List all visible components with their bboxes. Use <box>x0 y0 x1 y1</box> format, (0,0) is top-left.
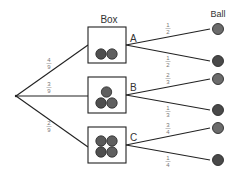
svg-text:2: 2 <box>166 62 170 68</box>
svg-text:9: 9 <box>47 88 51 94</box>
ball-icon <box>96 49 106 59</box>
box-c: C <box>88 127 137 163</box>
fraction-a-light: 1 2 <box>166 22 171 35</box>
ball-icon <box>96 98 106 108</box>
svg-text:4: 4 <box>47 57 51 63</box>
svg-text:1: 1 <box>166 105 170 111</box>
fraction-a-dark: 1 2 <box>166 55 171 68</box>
ball-branches <box>126 29 210 160</box>
box-c-label: C <box>130 132 137 143</box>
ball-light-icon <box>213 74 224 85</box>
box-column-title: Box <box>100 14 117 25</box>
ball-light-icon <box>213 123 224 134</box>
ball-icon <box>107 147 117 157</box>
svg-text:1: 1 <box>166 22 170 28</box>
branch-root-to-a <box>16 45 88 96</box>
fraction-c-dark: 1 4 <box>166 155 171 168</box>
fraction-root-a: 4 9 <box>47 57 52 70</box>
fraction-b-dark: 1 3 <box>166 105 171 118</box>
fraction-c-light: 3 4 <box>166 122 171 135</box>
ball-icon <box>107 98 117 108</box>
fraction-root-b: 3 9 <box>47 81 52 94</box>
probability-tree-diagram: Box Ball 4 9 3 9 2 9 A B <box>0 0 238 181</box>
ball-dark-icon <box>213 105 224 116</box>
fraction-b-light: 2 3 <box>166 72 171 85</box>
svg-text:9: 9 <box>47 127 51 133</box>
ball-column-title: Ball <box>210 9 225 19</box>
box-b: B <box>88 77 137 113</box>
svg-text:2: 2 <box>166 29 170 35</box>
svg-text:4: 4 <box>166 162 170 168</box>
ball-dark-icon <box>213 155 224 166</box>
ball-light-icon <box>213 24 224 35</box>
ball-icon <box>96 136 106 146</box>
ball-icon <box>107 49 117 59</box>
ball-dark-icon <box>213 56 224 67</box>
root-node <box>15 95 17 97</box>
svg-text:3: 3 <box>166 79 170 85</box>
svg-text:3: 3 <box>47 81 51 87</box>
box-a-label: A <box>130 33 137 44</box>
ball-icon <box>101 87 111 97</box>
fraction-root-c: 2 9 <box>47 120 52 133</box>
svg-text:1: 1 <box>166 155 170 161</box>
svg-text:4: 4 <box>166 129 170 135</box>
svg-text:3: 3 <box>166 122 170 128</box>
outcome-balls <box>213 24 224 166</box>
box-a: A <box>88 27 137 63</box>
svg-text:2: 2 <box>166 72 170 78</box>
root-branches <box>16 45 88 147</box>
ball-icon <box>107 136 117 146</box>
box-b-label: B <box>130 82 137 93</box>
svg-text:1: 1 <box>166 55 170 61</box>
svg-text:9: 9 <box>47 64 51 70</box>
ball-icon <box>96 147 106 157</box>
branch-root-to-c <box>16 96 88 147</box>
svg-text:3: 3 <box>166 112 170 118</box>
